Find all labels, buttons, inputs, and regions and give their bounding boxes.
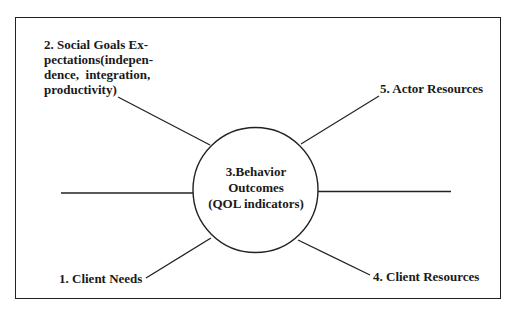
center-node-label: 3.Behavior Outcomes (QOL indicators) bbox=[200, 164, 312, 212]
connector-client-resources bbox=[298, 240, 370, 275]
center-line-2: Outcomes bbox=[200, 180, 312, 196]
connector-client-needs bbox=[146, 238, 211, 278]
node-client-resources: 4. Client Resources bbox=[373, 269, 479, 284]
center-line-3: (QOL indicators) bbox=[200, 196, 312, 212]
node-client-needs: 1. Client Needs bbox=[59, 271, 142, 286]
node-actor-resources: 5. Actor Resources bbox=[380, 81, 483, 96]
node-2-line-1: 2. Social Goals Ex- bbox=[44, 37, 153, 52]
node-2-line-2: pectations(indepen- bbox=[44, 52, 153, 67]
connector-social-goals bbox=[118, 97, 210, 145]
node-social-goals: 2. Social Goals Ex- pectations(indepen- … bbox=[44, 37, 153, 97]
node-2-line-3: dence, integration, bbox=[44, 67, 153, 82]
node-2-line-4: productivity) bbox=[44, 82, 153, 97]
center-line-1: 3.Behavior bbox=[200, 164, 312, 180]
connector-actor-resources bbox=[301, 96, 379, 144]
